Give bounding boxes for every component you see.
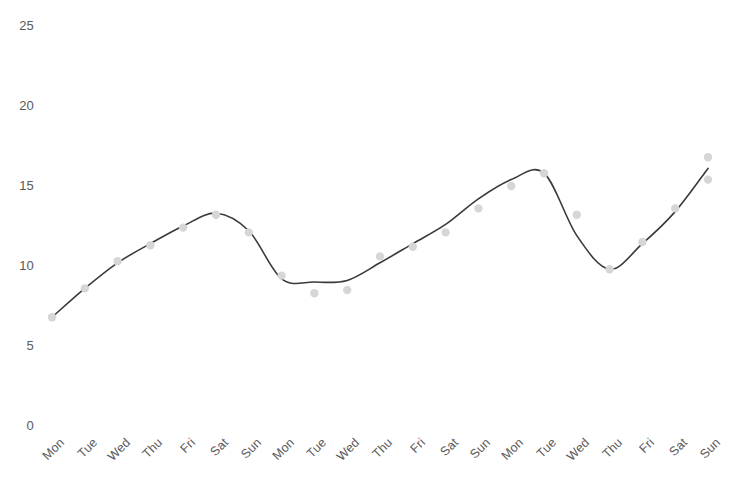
data-point [441, 228, 449, 236]
data-point [704, 153, 712, 161]
data-point [638, 238, 646, 246]
data-point [573, 211, 581, 219]
data-point [671, 204, 679, 212]
data-point [277, 271, 285, 279]
data-point [540, 169, 548, 177]
data-point [376, 252, 384, 260]
data-point [605, 265, 613, 273]
data-point [113, 257, 121, 265]
data-point [474, 204, 482, 212]
data-point [245, 228, 253, 236]
data-point [179, 223, 187, 231]
data-point [343, 286, 351, 294]
data-point [310, 289, 318, 297]
data-point [507, 182, 515, 190]
data-point [48, 313, 56, 321]
line-chart: 2520151050 MonTueWedThuFriSatSunMonTueWe… [0, 0, 740, 500]
data-point [704, 175, 712, 183]
data-point [409, 243, 417, 251]
data-point [146, 241, 154, 249]
plot-area [0, 0, 740, 500]
data-point [81, 284, 89, 292]
data-point [212, 211, 220, 219]
observed-point-series [48, 153, 712, 321]
